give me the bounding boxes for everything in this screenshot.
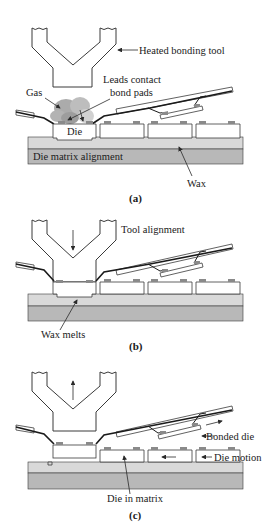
bonding-tool-c bbox=[32, 372, 116, 431]
label-bonded-die: Bonded die bbox=[206, 431, 254, 442]
caption-c: (c) bbox=[129, 509, 142, 522]
caption-b: (b) bbox=[129, 340, 143, 353]
caption-a: (a) bbox=[129, 192, 142, 205]
label-die-in-matrix: Die in matrix bbox=[107, 493, 164, 504]
panel-b: Tool alignment Wax melts (b) bbox=[16, 220, 243, 353]
panel-a: Heated bonding tool Gas Leads contact bo… bbox=[16, 28, 243, 205]
label-leads-contact: Leads contact bbox=[103, 74, 161, 85]
bonding-diagram: Heated bonding tool Gas Leads contact bo… bbox=[0, 0, 268, 524]
label-gas: Gas bbox=[26, 87, 42, 98]
label-bond-pads: bond pads bbox=[110, 87, 153, 98]
label-wax: Wax bbox=[187, 178, 207, 189]
label-wax-melts: Wax melts bbox=[41, 329, 85, 340]
label-die: Die bbox=[67, 126, 83, 137]
label-die-matrix-alignment: Die matrix alignment bbox=[33, 151, 123, 162]
label-heated-bonding-tool: Heated bonding tool bbox=[139, 45, 225, 56]
label-tool-alignment: Tool alignment bbox=[121, 224, 185, 235]
label-die-motion: Die motion bbox=[214, 452, 262, 463]
panel-c: Bonded die Die motion Die in matrix (c) bbox=[16, 372, 262, 522]
